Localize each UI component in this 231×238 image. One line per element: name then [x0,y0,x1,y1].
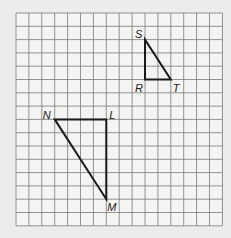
vertex-label-s: S [135,28,143,40]
vertex-label-l: L [109,109,115,121]
vertex-label-m: M [107,201,117,213]
vertex-label-r: R [135,82,143,94]
grid-diagram: SRTNLM [0,0,231,238]
vertex-label-n: N [43,109,51,121]
